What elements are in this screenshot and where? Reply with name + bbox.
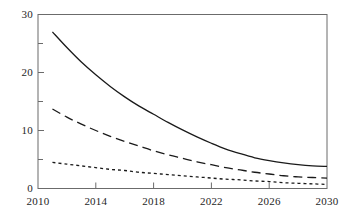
series-line-dotted-curve [52,162,327,184]
x-tick-label: 2018 [134,195,174,207]
data-series-layer [52,32,327,185]
x-tick-label: 2030 [307,195,347,207]
y-axis-minor-ticks [38,44,43,160]
x-tick-label: 2014 [76,195,116,207]
chart-plot-area [0,0,350,221]
y-tick-label: 10 [22,124,33,136]
x-tick-label: 2010 [18,195,58,207]
series-line-long-dashed-curve [52,109,327,178]
chart-container: 0102030 201020142018202220262030 [0,0,350,221]
y-tick-label: 0 [27,182,33,194]
x-tick-label: 2022 [191,195,231,207]
x-tick-label: 2026 [249,195,289,207]
series-line-solid-curve [52,32,327,167]
x-axis-major-ticks [96,183,269,189]
y-tick-label: 20 [22,66,33,78]
y-tick-label: 30 [22,8,33,20]
